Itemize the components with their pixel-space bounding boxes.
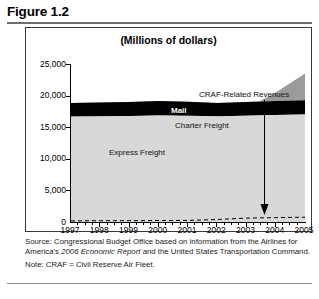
x-minor-tick [143,223,144,225]
bottom-divider [7,283,312,284]
source-suffix: and the United States Transportation Com… [140,247,309,256]
y-tick-mark [66,190,70,191]
chart-subtitle: (Millions of dollars) [26,34,311,46]
x-minor-tick [289,223,290,225]
x-minor-tick [231,223,232,225]
definition-note: Note: CRAF = Civil Reserve Air Fleet. [25,260,315,270]
stacked-area-chart [71,64,305,222]
series-area-charter-freight [71,114,305,222]
annotation-craf-related-revenues: CRAF-Related Revenues [199,90,289,99]
x-minor-tick [114,223,115,225]
chart-container: (Millions of dollars) 25,000 20,000 15,0… [25,27,312,232]
title-divider [7,22,312,24]
plot-area: Express Freight Mail Charter Freight CRA… [71,64,305,222]
x-minor-tick [202,223,203,225]
y-tick-mark [66,64,70,65]
series-label-charter-freight: Charter Freight [175,121,229,130]
x-axis-line [70,222,306,223]
annotation-arrow-down-icon [260,100,269,216]
series-label-express-freight: Express Freight [109,148,165,157]
page-title: Figure 1.2 [7,4,69,19]
y-tick-mark [66,127,70,128]
y-tick-label-5000: 5,000 [26,186,66,195]
y-tick-label-25000: 25,000 [26,60,66,69]
series-area-mail [71,100,305,116]
x-minor-tick [172,223,173,225]
x-minor-tick [260,223,261,225]
y-tick-label-15000: 15,000 [26,123,66,132]
x-minor-tick [85,223,86,225]
y-tick-label-20000: 20,000 [26,91,66,100]
y-tick-mark [66,159,70,160]
x-tick-label-2005: 2005 [287,226,319,235]
source-italic-title: 2006 Economic Report [61,247,140,256]
series-label-mail: Mail [171,106,187,115]
y-tick-label-10000: 10,000 [26,154,66,163]
source-note: Source: Congressional Budget Office base… [25,237,315,257]
y-tick-mark [66,96,70,97]
figure-page: Figure 1.2 (Millions of dollars) 25,000 … [0,0,319,299]
